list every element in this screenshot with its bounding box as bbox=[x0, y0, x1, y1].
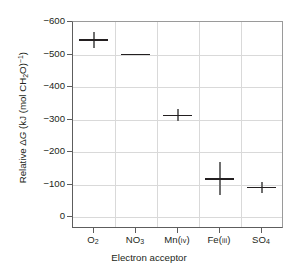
x-axis-title: Electron acceptor bbox=[0, 252, 298, 263]
gridline-horizontal bbox=[73, 87, 282, 88]
data-marker-mn bbox=[163, 115, 192, 117]
data-marker-fe bbox=[205, 178, 234, 180]
plot-area bbox=[72, 21, 283, 228]
x-tick-mark bbox=[219, 228, 220, 233]
y-axis-title-close: ) bbox=[17, 52, 28, 55]
y-axis-title-units: (kJ (mol CH bbox=[17, 78, 28, 132]
x-tick-label-o2: O2 bbox=[72, 234, 114, 247]
x-tick-mark bbox=[177, 228, 178, 233]
y-tick-label-100: −100 bbox=[43, 179, 65, 189]
gridline-vertical bbox=[199, 22, 200, 227]
x-tick-mark bbox=[93, 228, 94, 233]
y-axis-title-sub: 2 bbox=[22, 74, 29, 78]
gridline-horizontal bbox=[73, 185, 282, 186]
data-marker-so4 bbox=[247, 187, 276, 189]
x-tick-label-mn: Mn(iv) bbox=[156, 234, 198, 246]
data-marker-no3 bbox=[121, 54, 150, 56]
x-tick-label-fe: Fe(iii) bbox=[198, 234, 240, 246]
y-axis-title-sup: −1 bbox=[17, 55, 24, 63]
gridline-horizontal bbox=[73, 217, 282, 218]
y-tick-label-200: −200 bbox=[43, 146, 65, 156]
y-tick-label-300: −300 bbox=[43, 114, 65, 124]
data-marker-o2 bbox=[79, 39, 108, 41]
y-axis-title-units2: O) bbox=[17, 63, 28, 74]
delta-symbol: Δ bbox=[17, 139, 28, 145]
y-axis-title: Relative ΔG (kJ (mol CH2O)−1) bbox=[17, 13, 28, 223]
y-tick-label-400: −400 bbox=[43, 81, 65, 91]
chart-figure: Relative ΔG (kJ (mol CH2O)−1) −600 −500 … bbox=[0, 0, 298, 272]
x-tick-mark bbox=[261, 228, 262, 233]
y-axis-title-italic: G bbox=[17, 132, 28, 140]
y-tick-label-500: −500 bbox=[43, 49, 65, 59]
gridline-vertical bbox=[157, 22, 158, 227]
x-tick-label-no3: NO3 bbox=[114, 234, 156, 247]
x-tick-mark bbox=[135, 228, 136, 233]
gridline-vertical bbox=[115, 22, 116, 227]
y-axis-title-prefix: Relative bbox=[17, 146, 28, 184]
gridline-horizontal bbox=[73, 152, 282, 153]
gridline-vertical bbox=[241, 22, 242, 227]
y-tick-label-0: 0 bbox=[60, 211, 65, 221]
x-tick-label-so4: SO4 bbox=[240, 234, 282, 247]
y-tick-label-600: −600 bbox=[43, 16, 65, 26]
gridline-horizontal bbox=[73, 55, 282, 56]
